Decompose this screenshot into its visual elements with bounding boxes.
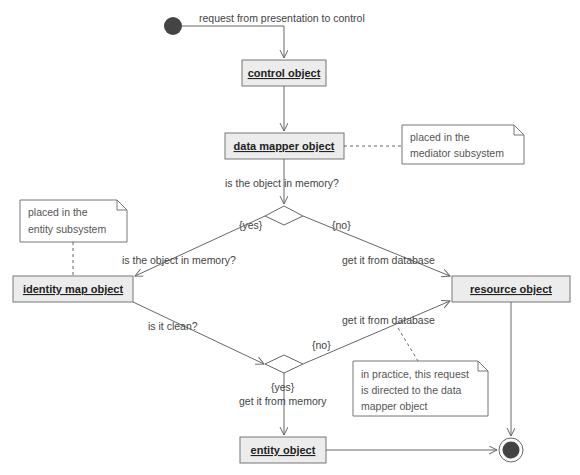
entity-object-box[interactable]: entity object bbox=[240, 437, 326, 463]
note-entity: placed in the entity subsystem bbox=[20, 200, 127, 242]
start-label: request from presentation to control bbox=[199, 12, 365, 24]
svg-text:is it clean?: is it clean? bbox=[148, 320, 198, 332]
final-node bbox=[499, 438, 523, 462]
svg-text:is directed to the data: is directed to the data bbox=[361, 384, 462, 396]
initial-node bbox=[164, 17, 182, 35]
svg-text:get it from memory: get it from memory bbox=[239, 395, 327, 407]
entity-object-label: entity object bbox=[251, 444, 316, 456]
data-mapper-object-label: data mapper object bbox=[234, 140, 335, 152]
svg-text:in practice, this request: in practice, this request bbox=[361, 368, 469, 380]
decision-node-in-memory bbox=[265, 206, 303, 225]
svg-text:mediator subsystem: mediator subsystem bbox=[410, 147, 504, 159]
svg-text:get it from database: get it from database bbox=[342, 254, 435, 266]
note-anchor-practice bbox=[398, 328, 418, 361]
activity-diagram: request from presentation to control con… bbox=[0, 0, 580, 475]
svg-text:placed in the: placed in the bbox=[410, 131, 470, 143]
control-object-box[interactable]: control object bbox=[242, 60, 326, 86]
svg-text:placed in the: placed in the bbox=[28, 206, 88, 218]
control-object-label: control object bbox=[248, 67, 321, 79]
svg-text:{yes}: {yes} bbox=[271, 381, 295, 393]
flow-yes-to-identity-map bbox=[135, 216, 265, 276]
svg-text:is the object in memory?: is the object in memory? bbox=[225, 177, 339, 189]
data-mapper-object-box[interactable]: data mapper object bbox=[225, 133, 344, 159]
decision-node-is-clean bbox=[265, 355, 303, 373]
identity-map-object-label: identity map object bbox=[23, 283, 124, 295]
svg-text:{no}: {no} bbox=[312, 339, 331, 351]
svg-text:entity subsystem: entity subsystem bbox=[28, 223, 106, 235]
resource-object-box[interactable]: resource object bbox=[452, 276, 570, 302]
svg-text:is the object in memory?: is the object in memory? bbox=[122, 254, 236, 266]
identity-map-object-box[interactable]: identity map object bbox=[13, 276, 133, 302]
flow-no-to-resource-2 bbox=[303, 301, 450, 364]
flow-identity-to-clean-decision bbox=[133, 302, 264, 364]
flow-no-to-resource bbox=[303, 216, 450, 276]
note-practice: in practice, this request is directed to… bbox=[353, 361, 488, 416]
flow-start-to-control bbox=[182, 26, 284, 58]
resource-object-label: resource object bbox=[470, 283, 552, 295]
svg-text:mapper object: mapper object bbox=[361, 400, 428, 412]
svg-text:get it from database: get it from database bbox=[342, 314, 435, 326]
note-mediator: placed in the mediator subsystem bbox=[402, 125, 524, 164]
svg-text:{yes}: {yes} bbox=[239, 219, 263, 231]
